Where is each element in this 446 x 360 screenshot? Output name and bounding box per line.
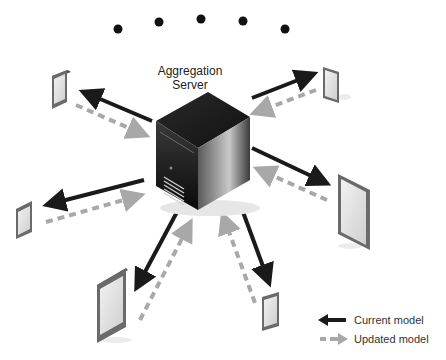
server-title: Aggregation Server bbox=[140, 64, 240, 92]
arrows-right bbox=[252, 148, 327, 200]
legend-updated-label: Updated model bbox=[354, 333, 429, 345]
device-tablet-right-icon bbox=[338, 174, 370, 250]
legend-current: Current model bbox=[318, 310, 429, 329]
dashed-arrow-icon bbox=[318, 333, 348, 345]
ellipsis-dots bbox=[114, 15, 290, 34]
arrows-top-left bbox=[76, 93, 152, 134]
arrows-bottom-right bbox=[224, 212, 268, 303]
aggregation-server-icon bbox=[156, 92, 260, 216]
solid-arrow-icon bbox=[318, 314, 348, 326]
arrows-bottom-left bbox=[138, 212, 189, 320]
device-phone-top-left-icon bbox=[52, 70, 71, 109]
device-phone-left-icon bbox=[16, 201, 32, 239]
arrows-top-right bbox=[252, 75, 316, 112]
device-phone-top-right-icon bbox=[323, 67, 351, 103]
legend-current-label: Current model bbox=[354, 314, 424, 326]
device-tablet-bottom-left-icon bbox=[97, 268, 132, 343]
legend: Current model Updated model bbox=[318, 310, 429, 348]
device-phone-bottom-right-icon bbox=[262, 292, 279, 331]
legend-updated: Updated model bbox=[318, 329, 429, 348]
federated-diagram bbox=[0, 0, 446, 360]
arrows-left bbox=[46, 180, 144, 222]
server-title-line1: Aggregation bbox=[140, 64, 240, 78]
server-title-line2: Server bbox=[140, 78, 240, 92]
